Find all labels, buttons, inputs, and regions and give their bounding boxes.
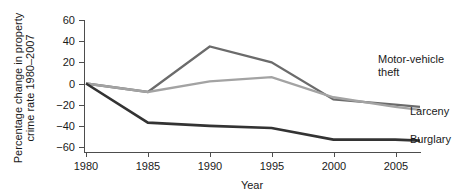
y-tick-label-0: 0	[69, 78, 75, 90]
x-tick-label-2000: 2000	[322, 160, 346, 172]
series-line-burglary	[86, 84, 420, 141]
y-axis-title-line2: crime rate 1980–2007	[24, 34, 36, 141]
x-tick-label-1990: 1990	[198, 160, 222, 172]
y-tick-label-minus20: −20	[56, 99, 75, 111]
x-axis: 1980 1985 1990 1995 2000 2005 Year	[74, 152, 421, 191]
x-tick-label-1985: 1985	[136, 160, 160, 172]
series-label-motor-vehicle-theft-line1: Motor-vehicle	[378, 53, 444, 65]
y-tick-label-minus40: −40	[56, 120, 75, 132]
y-axis-ticks	[79, 21, 84, 148]
series-label-burglary: Burglary	[410, 133, 451, 145]
x-tick-label-1980: 1980	[74, 160, 98, 172]
series-line-motor-vehicle-theft	[86, 46, 420, 106]
property-crime-line-chart: Percentage change in property crime rate…	[0, 0, 469, 193]
chart-canvas: Percentage change in property crime rate…	[0, 0, 469, 193]
y-axis-tick-labels: 60 40 20 0 −20 −40 −60	[56, 14, 75, 153]
y-axis: 60 40 20 0 −20 −40 −60	[56, 14, 84, 153]
y-tick-label-20: 20	[63, 56, 75, 68]
series-labels: Motor-vehicle theft Larceny Burglary	[378, 53, 451, 145]
y-tick-label-minus60: −60	[56, 141, 75, 153]
x-tick-label-2005: 2005	[384, 160, 408, 172]
y-tick-label-60: 60	[63, 14, 75, 26]
y-tick-label-40: 40	[63, 35, 75, 47]
y-axis-title-line1: Percentage change in property	[12, 12, 24, 163]
x-axis-title: Year	[241, 179, 264, 191]
y-axis-title: Percentage change in property crime rate…	[12, 12, 36, 163]
series-label-motor-vehicle-theft-line2: theft	[378, 66, 399, 78]
data-series-layer	[86, 46, 420, 140]
x-tick-label-1995: 1995	[260, 160, 284, 172]
series-label-larceny: Larceny	[410, 105, 450, 117]
x-axis-tick-labels: 1980 1985 1990 1995 2000 2005	[74, 160, 408, 172]
series-line-larceny	[86, 77, 420, 110]
